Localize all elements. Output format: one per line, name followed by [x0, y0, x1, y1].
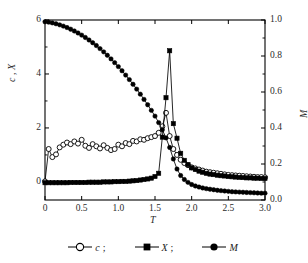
legend-label-m: M [229, 242, 237, 253]
data-point [160, 128, 164, 132]
x-tick-label-1.5: 1.5 [149, 203, 161, 213]
data-point [153, 114, 157, 118]
data-point [120, 69, 124, 73]
data-point [105, 53, 109, 57]
data-point [116, 64, 120, 68]
figure-chart: c , X M T c ; X ; M 00.51 [0, 0, 308, 263]
legend-label-chi: X [162, 242, 168, 253]
x-tick-label-3.0: 3.0 [259, 203, 271, 213]
series-M [43, 20, 267, 196]
legend: c ; X ; M [0, 236, 308, 258]
data-point [134, 87, 138, 91]
y-right-tick-label-0.8: 0.8 [270, 50, 282, 60]
x-tick-label-1.0: 1.0 [112, 203, 124, 213]
data-point [112, 147, 117, 152]
data-point [149, 108, 153, 112]
legend-label-c: c [95, 242, 99, 253]
y-right-tick-label-0.0: 0.0 [270, 194, 282, 204]
x-tick-label-0: 0 [43, 203, 48, 213]
y-left-tick-label-6: 6 [36, 14, 41, 24]
data-point [101, 50, 105, 54]
legend-separator-c: ; [102, 242, 106, 253]
filled-circle-icon [201, 241, 227, 253]
y-left-tick-label-2: 2 [36, 122, 41, 132]
legend-separator-chi: ; [170, 242, 174, 253]
x-tick-label-0.5: 0.5 [76, 203, 88, 213]
data-point [157, 171, 161, 175]
data-point [179, 151, 183, 155]
data-point [79, 137, 84, 142]
data-point [156, 120, 160, 124]
data-point [175, 136, 179, 140]
data-point [127, 77, 131, 81]
data-point [175, 167, 179, 171]
data-point [182, 158, 186, 162]
data-point [46, 147, 51, 152]
y-right-tick-label-1.0: 1.0 [270, 14, 282, 24]
y-axis-left-label: c , X [6, 64, 17, 82]
data-point [168, 49, 172, 53]
y-left-tick-label-0: 0 [36, 176, 41, 186]
data-point [109, 57, 113, 61]
data-point [167, 145, 171, 149]
data-point [123, 73, 127, 77]
data-point [98, 46, 102, 50]
x-axis-label: T [150, 214, 156, 225]
legend-item-m: M [201, 241, 240, 253]
filled-square-icon [134, 241, 160, 253]
data-point [171, 122, 175, 126]
x-tick-label-2.5: 2.5 [222, 203, 234, 213]
data-point [112, 60, 116, 64]
data-point [94, 43, 98, 47]
legend-item-chi: X ; [134, 241, 174, 253]
data-point [171, 157, 175, 161]
x-tick-label-2.0: 2.0 [186, 203, 198, 213]
legend-item-c: c ; [67, 241, 105, 253]
y-right-tick-label-0.4: 0.4 [270, 122, 282, 132]
y-right-tick-label-0.6: 0.6 [270, 86, 282, 96]
data-point [90, 40, 94, 44]
data-series-group [43, 20, 268, 196]
data-point [164, 96, 168, 100]
data-point [164, 136, 168, 140]
data-point [263, 176, 267, 180]
data-point [145, 103, 149, 107]
data-point [138, 92, 142, 96]
y-left-tick-label-4: 4 [36, 68, 41, 78]
data-point [182, 177, 186, 181]
data-point [54, 152, 59, 157]
data-point [142, 97, 146, 101]
data-point [263, 191, 267, 195]
series-c [43, 110, 268, 184]
open-circle-icon [67, 241, 93, 253]
y-axis-right-label: M [298, 110, 308, 118]
data-point [131, 82, 135, 86]
data-point [178, 173, 182, 177]
y-right-tick-label-0.2: 0.2 [270, 158, 282, 168]
